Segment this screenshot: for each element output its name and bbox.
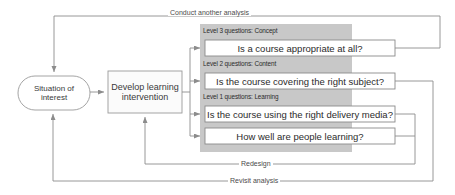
question-label-delivery-media: Is the course using the right delivery m… <box>205 106 395 122</box>
develop-learning-intervention-node[interactable] <box>108 71 182 113</box>
question-label-concept: Is a course appropriate at all? <box>205 40 395 56</box>
question-label-content: Is the course covering the right subject… <box>205 73 395 89</box>
question-label-learning: How well are people learning? <box>205 128 395 144</box>
process-flow-diagram: Situation ofinterest Develop learningint… <box>0 0 455 195</box>
edge-label-redesign: Redesign <box>239 160 273 167</box>
edge-label-revisit-analysis: Revisit analysis <box>228 177 280 184</box>
level-3-group-label: Level 3 questions: Concept <box>203 27 278 34</box>
situation-of-interest-node[interactable] <box>18 76 90 110</box>
edge-label-conduct-another-analysis: Conduct another analysis <box>168 9 251 16</box>
level-1-group-label: Level 1 questions: Learning <box>203 93 278 100</box>
edge-redesign-from-question-2 <box>395 114 415 164</box>
level-2-group-label: Level 2 questions: Content <box>203 60 276 67</box>
